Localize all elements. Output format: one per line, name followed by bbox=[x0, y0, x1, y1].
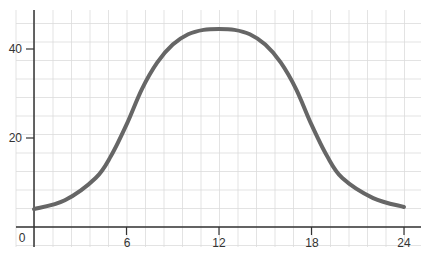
x-tick-label-12: 12 bbox=[212, 236, 226, 250]
line-chart: 0 6 12 18 24 20 40 bbox=[0, 0, 432, 258]
y-tick-label-20: 20 bbox=[9, 131, 23, 145]
origin-label: 0 bbox=[19, 231, 26, 245]
x-tick-label-18: 18 bbox=[305, 236, 319, 250]
y-tick-label-40: 40 bbox=[9, 42, 23, 56]
axis-ticks bbox=[26, 49, 404, 235]
data-curve bbox=[34, 29, 404, 209]
x-tick-label-24: 24 bbox=[397, 236, 411, 250]
grid-lines bbox=[16, 10, 421, 247]
x-tick-label-6: 6 bbox=[124, 236, 131, 250]
